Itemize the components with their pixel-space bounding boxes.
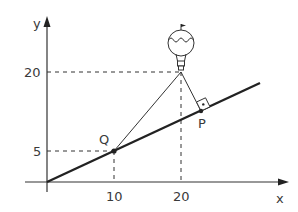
x-tick-10: 10 bbox=[106, 189, 123, 204]
dashed-guides bbox=[47, 72, 181, 182]
coordinate-diagram: y x 20 5 10 20 Q P bbox=[0, 0, 298, 212]
flag-icon bbox=[181, 24, 186, 27]
slope-line bbox=[47, 83, 260, 182]
point-q-marker bbox=[111, 148, 116, 153]
balloon-to-q-line bbox=[114, 72, 181, 151]
right-angle-marker bbox=[197, 98, 211, 111]
point-q-label: Q bbox=[99, 132, 109, 147]
y-tick-20: 20 bbox=[24, 65, 41, 80]
y-axis-label: y bbox=[33, 16, 41, 31]
hot-air-balloon-icon bbox=[168, 24, 194, 70]
x-tick-20: 20 bbox=[173, 189, 190, 204]
y-axis-arrowhead-icon bbox=[44, 16, 51, 27]
y-axis bbox=[44, 16, 51, 192]
x-axis-label: x bbox=[276, 191, 284, 206]
x-axis bbox=[25, 179, 289, 186]
y-tick-5: 5 bbox=[33, 144, 41, 159]
point-p-marker bbox=[199, 109, 203, 113]
x-axis-arrowhead-icon bbox=[278, 179, 289, 186]
point-p-label: P bbox=[198, 116, 206, 131]
diagram-canvas: y x 20 5 10 20 Q P bbox=[0, 0, 298, 212]
